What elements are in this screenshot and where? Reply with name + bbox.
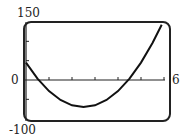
y-max-label: 150 [17,7,40,19]
origin-label: 0 [11,74,19,86]
graph-canvas [0,0,184,137]
x-max-label: 6 [172,74,180,86]
function-curve [26,25,162,107]
y-min-label: -100 [9,124,36,136]
viewing-window-frame [24,22,170,121]
